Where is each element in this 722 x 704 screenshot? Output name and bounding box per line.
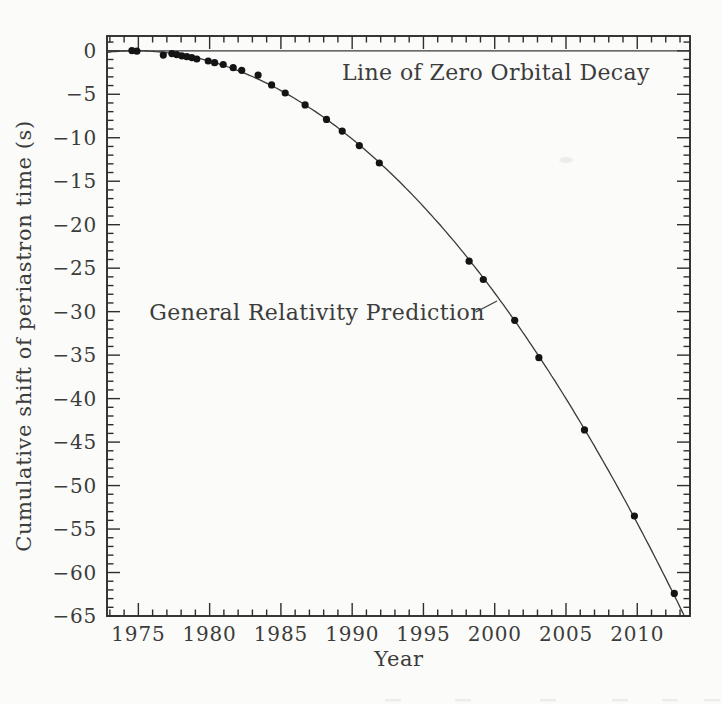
- data-point: [238, 67, 245, 74]
- data-point: [323, 116, 330, 123]
- y-tick-label: −30: [52, 300, 97, 324]
- y-axis-title: Cumulative shift of periastron time (s): [12, 120, 36, 551]
- data-point: [220, 61, 227, 68]
- x-tick-label: 1980: [183, 622, 237, 646]
- data-point: [205, 57, 212, 64]
- plot-frame: [107, 36, 690, 616]
- data-point: [466, 258, 473, 265]
- data-point: [193, 55, 200, 62]
- scan-smudge: [704, 699, 720, 702]
- scan-smudge: [612, 699, 628, 702]
- data-point: [255, 72, 262, 79]
- x-axis-title: Year: [373, 647, 424, 671]
- x-tick-label: 1990: [325, 622, 379, 646]
- data-point: [339, 128, 346, 135]
- pulsar-orbital-decay-chart: 19751980198519901995200020052010 0−5−10−…: [0, 0, 722, 704]
- y-tick-labels: 0−5−10−15−20−25−30−35−40−45−50−55−60−65: [52, 39, 97, 628]
- data-point: [511, 317, 518, 324]
- y-tick-label: −65: [52, 604, 97, 628]
- y-tick-label: −10: [52, 126, 97, 150]
- data-point: [230, 64, 237, 71]
- data-point: [302, 101, 309, 108]
- y-tick-label: −55: [52, 517, 97, 541]
- scan-smudge: [559, 157, 573, 163]
- data-point: [581, 426, 588, 433]
- y-tick-label: 0: [83, 39, 97, 63]
- x-tick-label: 2005: [539, 622, 593, 646]
- y-tick-label: −25: [52, 256, 97, 280]
- y-tick-label: −50: [52, 474, 97, 498]
- scan-smudge: [385, 699, 401, 702]
- x-tick-labels: 19751980198519901995200020052010: [111, 622, 664, 646]
- data-point: [282, 89, 289, 96]
- y-tick-label: −60: [52, 561, 97, 585]
- y-tick-label: −35: [52, 343, 97, 367]
- y-tick-label: −40: [52, 387, 97, 411]
- y-tick-label: −20: [52, 213, 97, 237]
- data-point: [356, 142, 363, 149]
- y-tick-label: −45: [52, 430, 97, 454]
- data-point: [480, 276, 487, 283]
- x-tick-label: 2000: [468, 622, 522, 646]
- data-point: [631, 512, 638, 519]
- scan-smudge: [662, 699, 678, 702]
- scan-artifact-bottom: [385, 699, 720, 702]
- x-tick-label: 1975: [111, 622, 165, 646]
- gr-prediction-curve: [107, 51, 684, 616]
- annotation-gr-prediction: General Relativity Prediction: [149, 300, 484, 325]
- scan-smudge: [455, 699, 471, 702]
- axis-ticks: [107, 36, 690, 616]
- data-point: [133, 48, 140, 55]
- annotation-zero-decay: Line of Zero Orbital Decay: [342, 60, 650, 85]
- data-point: [535, 354, 542, 361]
- data-point: [376, 159, 383, 166]
- y-tick-label: −5: [66, 82, 97, 106]
- x-tick-label: 1995: [396, 622, 450, 646]
- x-tick-label: 1985: [254, 622, 308, 646]
- data-point: [211, 59, 218, 66]
- x-tick-label: 2010: [610, 622, 664, 646]
- data-point: [160, 52, 167, 59]
- y-tick-label: −15: [52, 169, 97, 193]
- figure: 19751980198519901995200020052010 0−5−10−…: [0, 0, 722, 704]
- data-point: [268, 81, 275, 88]
- data-point: [671, 590, 678, 597]
- scan-smudge: [540, 699, 556, 702]
